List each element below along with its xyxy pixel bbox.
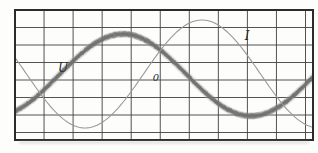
voltage-trace-label: U (58, 61, 69, 75)
oscillogram-plot: U 0 I (0, 0, 318, 153)
zero-level-label: 0 (153, 72, 160, 83)
oscillogram-figure: U 0 I (0, 0, 318, 153)
scan-shadow (19, 142, 309, 144)
current-trace-label: I (244, 29, 250, 43)
